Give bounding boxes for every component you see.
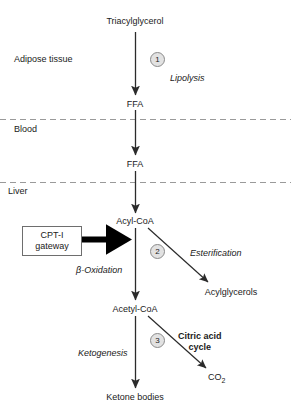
node-triacylglycerol: Triacylglycerol <box>106 16 163 27</box>
citric-acid-cycle-line1: Citric acid <box>178 331 222 342</box>
node-ketone-bodies: Ketone bodies <box>106 392 164 403</box>
compartment-label-liver: Liver <box>8 186 28 197</box>
process-label-citric-acid-cycle: Citric acid cycle <box>178 331 222 353</box>
co2-subscript: 2 <box>222 377 226 384</box>
citric-acid-cycle-line2: cycle <box>178 342 222 353</box>
node-acetyl-coa: Acetyl-CoA <box>112 304 157 315</box>
step-circle-3: 3 <box>150 333 165 348</box>
metabolism-pathway-diagram: Adipose tissue Blood Liver Triacylglycer… <box>0 0 291 419</box>
compartment-label-adipose-tissue: Adipose tissue <box>14 54 73 65</box>
process-label-ketogenesis: Ketogenesis <box>78 348 128 359</box>
node-ffa-adipose: FFA <box>127 99 144 110</box>
process-label-lipolysis: Lipolysis <box>170 73 205 84</box>
step-circle-2: 2 <box>150 244 165 259</box>
node-ffa-blood: FFA <box>127 159 144 170</box>
cpt-i-gateway-line2: gateway <box>28 241 76 252</box>
compartment-label-blood: Blood <box>14 124 37 135</box>
node-co2: CO2 <box>208 372 225 386</box>
node-acylglycerols: Acylglycerols <box>205 287 258 298</box>
cpt-i-gateway-box: CPT-I gateway <box>22 226 82 256</box>
cpt-i-gateway-line1: CPT-I <box>28 230 76 241</box>
co2-text: CO <box>208 372 222 382</box>
process-label-esterification: Esterification <box>190 248 242 259</box>
step-circle-1: 1 <box>150 52 165 67</box>
node-acyl-coa: Acyl-CoA <box>116 216 154 227</box>
process-label-beta-oxidation: β-Oxidation <box>76 265 122 276</box>
